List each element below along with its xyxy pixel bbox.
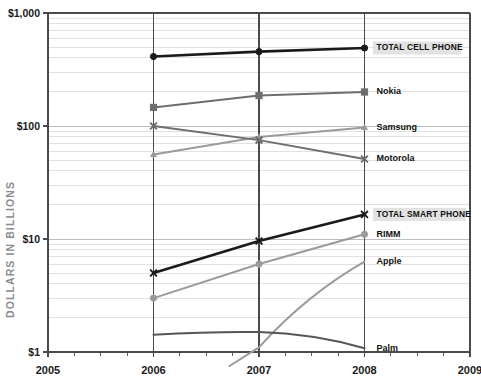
series-label-motorola: Motorola bbox=[377, 153, 416, 163]
x-tick-label: 2007 bbox=[247, 364, 271, 376]
series-label-apple: Apple bbox=[377, 256, 402, 266]
y-tick-label: $1,000 bbox=[8, 7, 40, 19]
x-tick-label: 2006 bbox=[141, 364, 165, 376]
y-tick-label: $10 bbox=[22, 233, 40, 245]
series-label-palm: Palm bbox=[377, 343, 399, 353]
data-point bbox=[150, 104, 156, 110]
series-label-total-cell-phone: TOTAL CELL PHONE bbox=[377, 42, 464, 52]
x-tick-label: 2008 bbox=[352, 364, 376, 376]
data-point bbox=[150, 295, 156, 301]
series-label-rimm: RIMM bbox=[377, 229, 401, 239]
series-apple bbox=[229, 262, 364, 366]
year-vertical-lines bbox=[154, 13, 365, 352]
chart-container: TOTAL CELL PHONENokiaSamsungMotorolaTOTA… bbox=[0, 0, 481, 388]
series-line bbox=[229, 262, 364, 366]
data-point bbox=[256, 92, 262, 98]
series-labels: TOTAL CELL PHONENokiaSamsungMotorolaTOTA… bbox=[373, 42, 471, 353]
data-point bbox=[361, 89, 367, 95]
y-axis-title-text: DOLLARS IN BILLIONS bbox=[4, 181, 16, 318]
data-point bbox=[361, 45, 367, 51]
y-axis-title: DOLLARS IN BILLIONS bbox=[4, 181, 16, 318]
series-label-nokia: Nokia bbox=[377, 86, 403, 96]
axis-tick-labels: $1,000$100$10$120052006200720082009 bbox=[8, 7, 481, 376]
y-tick-label: $100 bbox=[17, 120, 41, 132]
data-point bbox=[256, 261, 262, 267]
line-chart: TOTAL CELL PHONENokiaSamsungMotorolaTOTA… bbox=[0, 0, 481, 388]
x-tick-label: 2009 bbox=[458, 364, 481, 376]
x-tick-label: 2005 bbox=[36, 364, 60, 376]
series-label-samsung: Samsung bbox=[377, 122, 418, 132]
data-point bbox=[361, 231, 367, 237]
y-tick-label: $1 bbox=[28, 346, 40, 358]
series-label-total-smart-phone: TOTAL SMART PHONE bbox=[377, 209, 472, 219]
data-point bbox=[256, 49, 262, 55]
data-point bbox=[150, 53, 156, 59]
